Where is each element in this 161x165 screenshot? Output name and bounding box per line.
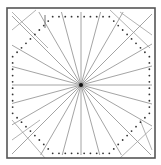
outline-dot xyxy=(52,16,54,18)
outline-dot xyxy=(83,152,85,154)
outline-dot xyxy=(126,135,128,137)
outline-dot xyxy=(47,20,49,22)
outline-dot xyxy=(148,87,150,89)
outline-dot xyxy=(21,121,23,123)
outline-dot xyxy=(12,56,14,58)
center-point xyxy=(79,83,83,87)
outline-dot xyxy=(43,144,45,146)
outline-dot xyxy=(58,152,60,154)
corner-line xyxy=(12,12,48,48)
ray-line xyxy=(81,85,121,155)
outline-dot xyxy=(38,29,40,31)
outline-dot xyxy=(38,139,40,141)
diagram-svg xyxy=(0,0,161,165)
outline-dot xyxy=(12,94,14,96)
outline-dot xyxy=(148,75,150,77)
ray-line xyxy=(81,12,101,85)
outline-dot xyxy=(71,16,73,18)
ray-line xyxy=(81,85,151,155)
outline-dot xyxy=(12,81,14,83)
ray-line xyxy=(12,67,81,85)
outline-dot xyxy=(148,94,150,96)
outline-dot xyxy=(148,81,150,83)
ray-line xyxy=(12,85,81,125)
outline-dot xyxy=(144,51,146,53)
outline-dot xyxy=(30,130,32,132)
outline-dot xyxy=(135,126,137,128)
outline-dot xyxy=(12,100,14,102)
outline-dot xyxy=(34,34,36,36)
outline-dot xyxy=(102,152,104,154)
outline-dot xyxy=(52,152,54,154)
ray-line xyxy=(81,85,152,126)
corner-line xyxy=(120,12,152,35)
ray-line xyxy=(81,14,152,85)
outline-dot xyxy=(140,47,142,49)
outline-dot xyxy=(122,139,124,141)
ray-line xyxy=(62,85,81,155)
outline-dot xyxy=(90,152,92,154)
outline-dot xyxy=(77,152,79,154)
outline-dot xyxy=(12,106,14,108)
ray-line xyxy=(12,16,81,85)
corner-line xyxy=(120,128,152,158)
outline-dot xyxy=(77,16,79,18)
outline-dot xyxy=(148,56,150,58)
outline-dot xyxy=(113,20,115,22)
outline-dot xyxy=(83,16,85,18)
outline-dot xyxy=(113,148,115,150)
outline-dot xyxy=(64,16,66,18)
outline-dot xyxy=(126,34,128,36)
outline-dot xyxy=(148,112,150,114)
outline-dot xyxy=(144,117,146,119)
outline-dot xyxy=(12,62,14,64)
ray-line xyxy=(12,45,81,85)
outline-dot xyxy=(34,135,36,137)
outline-dot xyxy=(21,47,23,49)
outline-dot xyxy=(140,121,142,123)
outline-dot xyxy=(58,16,60,18)
outline-dot xyxy=(12,112,14,114)
outline-dot xyxy=(108,16,110,18)
ray-line xyxy=(81,12,123,85)
ray-line xyxy=(41,85,81,155)
outline-dot xyxy=(90,16,92,18)
outline-dot xyxy=(117,25,119,27)
ray-line xyxy=(61,12,81,85)
outline-dot xyxy=(71,152,73,154)
outline-dot xyxy=(25,126,27,128)
outline-dot xyxy=(64,152,66,154)
outline-dot xyxy=(43,25,45,27)
outline-dot xyxy=(25,42,27,44)
outline-dot xyxy=(122,29,124,31)
outline-dot xyxy=(12,87,14,89)
outline-dot xyxy=(148,106,150,108)
outline-dot xyxy=(148,68,150,70)
ray-line xyxy=(12,85,81,154)
outline-dot xyxy=(131,38,133,40)
outline-dot xyxy=(12,68,14,70)
ray-line xyxy=(12,85,81,103)
outline-dot xyxy=(148,62,150,64)
ray-line xyxy=(81,44,152,85)
outline-dot xyxy=(47,148,49,150)
outline-dot xyxy=(108,152,110,154)
outline-dot xyxy=(96,16,98,18)
outline-dot xyxy=(30,38,32,40)
outline-dot xyxy=(16,51,18,53)
outline-dot xyxy=(135,42,137,44)
outline-dot xyxy=(117,144,119,146)
ray-line xyxy=(81,66,152,85)
outline-dot xyxy=(131,130,133,132)
outline-dot xyxy=(148,100,150,102)
ray-line xyxy=(81,85,152,104)
radial-diagram xyxy=(0,0,161,165)
outline-dot xyxy=(16,117,18,119)
outline-dot xyxy=(96,152,98,154)
ray-line xyxy=(81,85,100,155)
outline-dot xyxy=(102,16,104,18)
outline-dot xyxy=(12,75,14,77)
